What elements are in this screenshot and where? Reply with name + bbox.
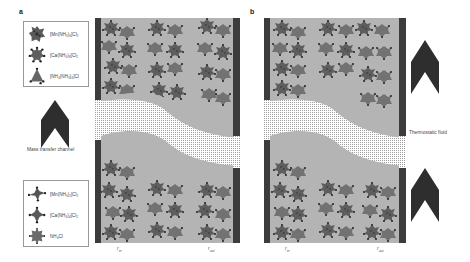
r-in-label-a: rin (117, 245, 121, 253)
reactor-b-illustration (264, 18, 406, 243)
panel-a-label: a (19, 8, 23, 15)
ca-complex-icon (28, 206, 46, 224)
legend-bottom: [Mn(NH₃)₂]Cl₂ [Ca(NH₃)₄]Cl₂ NH₄Cl (23, 180, 89, 247)
legend-item-mn: [Mn(NH₃)₂]Cl₂ (28, 185, 78, 203)
legend-item-nh4: [NH₄(NH₃)₄]Cl (28, 67, 79, 85)
mn-complex-icon (28, 25, 46, 43)
thermostatic-flow-arrow-bottom-icon (411, 168, 439, 222)
r-in-subscript: in (119, 249, 122, 253)
reactor-a (95, 18, 240, 243)
reactor-b (264, 18, 406, 243)
legend-item-ca: [Ca(NH₃)₄]Cl₂ (28, 206, 78, 224)
legend-label: [Ca(NH₃)₈]Cl₂ (50, 53, 78, 58)
legend-item-nh4cl: NH₄Cl (28, 227, 63, 245)
legend-item-mn: [Mn(NH₃)₆]Cl₂ (28, 25, 78, 43)
nh4-complex-icon (28, 67, 46, 85)
legend-top: [Mn(NH₃)₆]Cl₂ [Ca(NH₃)₈]Cl₂ [NH₄(NH₃)₄]C… (23, 21, 89, 87)
r-out-label-b: rout (377, 245, 384, 253)
r-out-label-a: rout (208, 245, 215, 253)
legend-label: NH₄Cl (50, 234, 63, 239)
r-in-label-b: rin (285, 245, 289, 253)
legend-label: [NH₄(NH₃)₄]Cl (50, 74, 79, 79)
legend-label: [Ca(NH₃)₄]Cl₂ (50, 213, 78, 218)
legend-item-ca: [Ca(NH₃)₈]Cl₂ (28, 46, 78, 64)
r-out-subscript: out (379, 249, 384, 253)
r-in-subscript: in (287, 249, 290, 253)
mass-transfer-arrow-icon (41, 100, 69, 148)
mn-complex-icon (28, 185, 46, 203)
r-out-subscript: out (210, 249, 215, 253)
legend-label: [Mn(NH₃)₆]Cl₂ (50, 32, 78, 37)
thermostatic-flow-arrow-top-icon (411, 40, 439, 94)
panel-b-label: b (250, 8, 254, 15)
nh4cl-icon (28, 227, 46, 245)
mass-transfer-caption: Mass transfer channel (27, 147, 74, 152)
legend-label: [Mn(NH₃)₂]Cl₂ (50, 192, 78, 197)
thermostatic-fluid-caption: Thermostatic fluid (409, 130, 447, 135)
reactor-a-illustration (95, 18, 240, 243)
ca-complex-icon (28, 46, 46, 64)
